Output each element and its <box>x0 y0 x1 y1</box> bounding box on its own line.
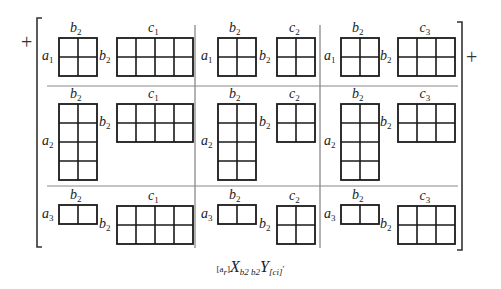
block-row1-col1-a <box>59 38 97 76</box>
label-top-row3-col2-c: c2 <box>289 189 300 207</box>
caption-right-index: [ci] <box>269 267 283 277</box>
caption-x-symbol: X <box>230 258 240 275</box>
label-side-row2-col1-a: a2 <box>42 134 54 152</box>
label-top-row3-col3-c: c3 <box>420 189 431 207</box>
label-top-row2-col3-c: c3 <box>420 87 431 105</box>
label-side-row1-col2-a: a1 <box>201 49 213 67</box>
figure-caption: [ar]Xb2 b2Y[ci]′ <box>0 258 501 277</box>
label-side-row1-col1-b: b2 <box>99 49 111 67</box>
label-side-row1-col2-b: b2 <box>259 49 271 67</box>
caption-left-index: [ar] <box>217 264 231 274</box>
label-side-row3-col3-b: b2 <box>380 217 392 235</box>
block-row3-col1-c <box>117 206 193 244</box>
block-row1-col2-a <box>218 38 256 76</box>
block-row2-col2-c <box>277 104 315 142</box>
block-row3-col2-c <box>277 206 315 244</box>
block-row2-col1-c <box>117 104 193 142</box>
label-side-row3-col2-b: b2 <box>259 217 271 235</box>
block-matrix-diagram <box>0 0 501 289</box>
label-top-row1-col1-c: c1 <box>148 21 159 39</box>
label-top-row3-col1-c: c1 <box>148 189 159 207</box>
label-top-row1-col3-c: c3 <box>420 21 431 39</box>
caption-y-symbol: Y <box>260 258 269 275</box>
label-top-row1-col1-b: b2 <box>70 21 82 39</box>
leading-plus-sign: + <box>21 32 32 52</box>
caption-prime: ′ <box>283 264 285 274</box>
block-row3-col3-a <box>341 205 379 224</box>
label-top-row1-col3-b: b2 <box>352 21 364 39</box>
label-side-row1-col3-a: a1 <box>324 49 336 67</box>
label-top-row2-col3-b: b2 <box>352 87 364 105</box>
block-row2-col3-a <box>341 104 379 180</box>
label-side-row2-col3-b: b2 <box>380 115 392 133</box>
block-row3-col1-a <box>59 205 97 224</box>
block-row1-col3-a <box>341 38 379 76</box>
label-top-row2-col2-b: b2 <box>229 87 241 105</box>
label-top-row1-col2-c: c2 <box>289 21 300 39</box>
label-top-row1-col2-b: b2 <box>229 21 241 39</box>
block-matrix-figure: + + b2a1c1b2b2a1c2b2b2a1c3b2b2a2c1b2b2a2… <box>0 0 501 289</box>
trailing-plus-sign: + <box>466 47 477 67</box>
block-row2-col1-a <box>59 104 97 180</box>
block-row1-col1-c <box>117 38 193 76</box>
label-side-row2-col2-b: b2 <box>259 115 271 133</box>
label-side-row1-col1-a: a1 <box>42 49 54 67</box>
label-side-row3-col1-a: a3 <box>42 207 54 225</box>
right-bracket <box>457 22 462 250</box>
block-row2-col3-c <box>398 104 455 142</box>
label-side-row2-col2-a: a2 <box>201 134 213 152</box>
label-top-row2-col1-c: c1 <box>148 87 159 105</box>
label-side-row2-col3-a: a2 <box>324 134 336 152</box>
block-row1-col3-c <box>398 38 455 76</box>
label-side-row3-col1-b: b2 <box>99 217 111 235</box>
label-top-row3-col3-b: b2 <box>352 188 364 206</box>
block-row1-col2-c <box>277 38 315 76</box>
caption-x-subscript: b2 b2 <box>240 267 260 277</box>
label-top-row2-col1-b: b2 <box>70 87 82 105</box>
block-row2-col2-a <box>218 104 256 180</box>
label-side-row3-col3-a: a3 <box>324 207 336 225</box>
block-row3-col3-c <box>398 206 455 244</box>
label-side-row1-col3-b: b2 <box>380 49 392 67</box>
block-row3-col2-a <box>218 205 256 224</box>
label-side-row3-col2-a: a3 <box>201 207 213 225</box>
label-top-row3-col2-b: b2 <box>229 188 241 206</box>
label-side-row2-col1-b: b2 <box>99 115 111 133</box>
label-top-row3-col1-b: b2 <box>70 188 82 206</box>
label-top-row2-col2-c: c2 <box>289 87 300 105</box>
